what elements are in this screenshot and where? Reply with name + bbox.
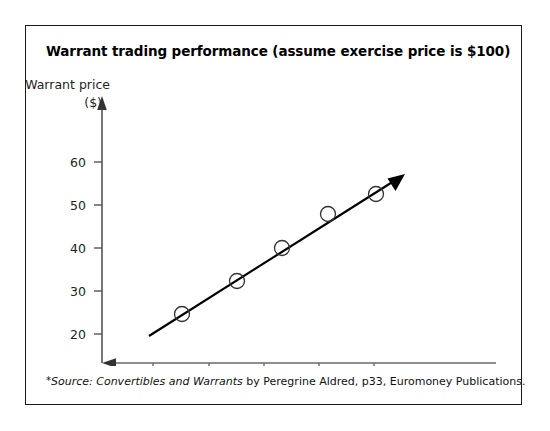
page-title: Warrant trading performance (assume exer… xyxy=(46,43,510,59)
y-axis-title-line1: Warrant price xyxy=(26,77,110,92)
y-tick-label-50: 50 xyxy=(70,198,86,213)
trend-line xyxy=(149,174,405,336)
trend-line-arrow-icon xyxy=(388,174,406,191)
y-tick-label-40: 40 xyxy=(70,241,86,256)
y-axis xyxy=(97,96,107,363)
footnote-work-title: Convertibles and Warrants xyxy=(96,375,243,388)
data-point-marker xyxy=(321,207,336,222)
y-tick-label-20: 20 xyxy=(70,327,86,342)
data-point-marker xyxy=(369,187,384,202)
y-tick-label-30: 30 xyxy=(70,284,86,299)
footnote-source-label: Source: xyxy=(51,375,93,388)
trend-line-segment xyxy=(149,181,394,336)
source-footnote: *Source: Convertibles and Warrants by Pe… xyxy=(46,375,525,388)
figure-frame: Warrant trading performance (assume exer… xyxy=(25,25,522,405)
chart-plot-area: Warrant price ($) 60 50 40 30 xyxy=(26,66,521,366)
x-axis xyxy=(102,358,496,366)
x-axis-arrow-icon xyxy=(102,358,116,366)
footnote-rest: by Peregrine Aldred, p33, Euromoney Publ… xyxy=(243,375,526,388)
y-tick-label-60: 60 xyxy=(70,155,86,170)
y-axis-ticks: 60 50 40 30 20 xyxy=(70,155,102,342)
figure-page: Warrant trading performance (assume exer… xyxy=(0,0,550,431)
warrant-price-scatter-chart: Warrant price ($) 60 50 40 30 xyxy=(26,66,521,366)
